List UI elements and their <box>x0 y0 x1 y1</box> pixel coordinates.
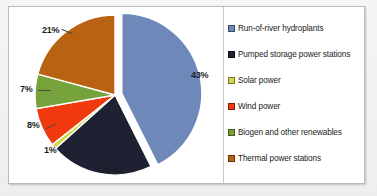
slice-label-pumped-storage: 21% <box>102 165 119 175</box>
legend-item-run-of-river-hydroplants[interactable]: Run-of-river hydroplants <box>228 15 364 41</box>
legend-item-wind-power[interactable]: Wind power <box>228 93 364 119</box>
legend-swatch-icon <box>228 129 235 136</box>
slice-label-biogen: 7% <box>20 84 33 94</box>
legend-item-label: Biogen and other renewables <box>238 128 342 137</box>
pie-plot-area: 43% 21% 1% 8% 7% 21% <box>9 7 223 183</box>
legend-item-biogen-and-other-renewables[interactable]: Biogen and other renewables <box>228 119 364 145</box>
legend-item-pumped-storage-power-stations[interactable]: Pumped storage power stations <box>228 41 364 67</box>
legend-item-label: Solar power <box>238 76 281 85</box>
slice-label-run-of-river: 43% <box>191 70 208 80</box>
legend-item-label: Pumped storage power stations <box>238 50 350 59</box>
leader-line-green <box>38 90 51 91</box>
legend-swatch-icon <box>228 25 235 32</box>
legend-item-thermal-power-stations[interactable]: Thermal power stations <box>228 145 364 171</box>
legend-swatch-icon <box>228 77 235 84</box>
legend-item-label: Thermal power stations <box>238 154 321 163</box>
legend-swatch-icon <box>228 103 235 110</box>
legend-item-label: Run-of-river hydroplants <box>238 24 323 33</box>
legend-item-label: Wind power <box>238 102 280 111</box>
slice-label-thermal: 21% <box>42 25 59 35</box>
legend-item-solar-power[interactable]: Solar power <box>228 67 364 93</box>
slice-label-wind: 8% <box>27 120 40 130</box>
pie-chart-screenshot: 43% 21% 1% 8% 7% 21% Run-of-river hydrop… <box>0 0 377 196</box>
slice-label-solar: 1% <box>44 145 57 155</box>
chart-frame: 43% 21% 1% 8% 7% 21% Run-of-river hydrop… <box>8 6 365 184</box>
pie-slices <box>35 13 202 175</box>
legend-swatch-icon <box>228 155 235 162</box>
legend-swatch-icon <box>228 51 235 58</box>
chart-legend: Run-of-river hydroplants Pumped storage … <box>223 7 364 183</box>
